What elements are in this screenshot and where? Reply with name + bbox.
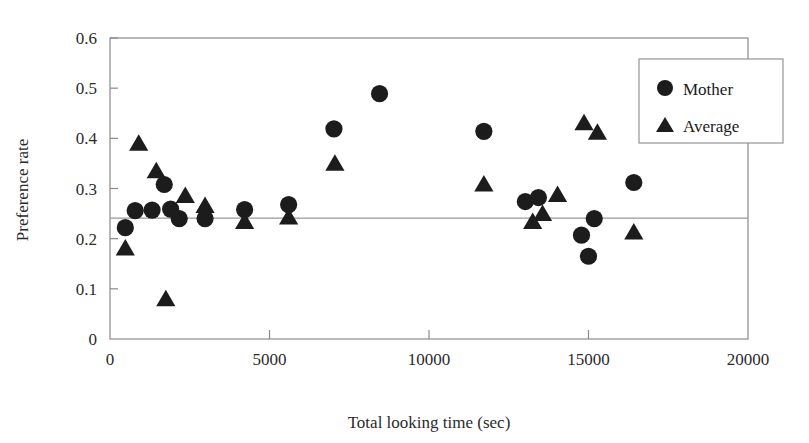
data-point-circle <box>530 189 547 206</box>
data-point-circle <box>625 174 642 191</box>
legend-circle-icon <box>657 80 673 96</box>
data-point-circle <box>236 201 253 218</box>
x-tick-label: 10000 <box>408 350 451 369</box>
plot-canvas: 00.10.20.30.40.50.6 05000100001500020000… <box>0 0 809 443</box>
data-point-circle <box>573 227 590 244</box>
data-point-circle <box>325 120 342 137</box>
data-point-circle <box>196 210 213 227</box>
y-tick-label: 0.1 <box>76 280 97 299</box>
x-axis-title: Total looking time (sec) <box>348 413 511 432</box>
x-tick-label: 20000 <box>727 350 770 369</box>
data-point-circle <box>371 85 388 102</box>
x-tick-label: 15000 <box>567 350 610 369</box>
x-tick-label: 5000 <box>253 350 287 369</box>
data-point-circle <box>117 219 134 236</box>
data-point-circle <box>171 210 188 227</box>
y-axis-title: Preference rate <box>13 139 32 241</box>
x-tick-label: 0 <box>106 350 115 369</box>
y-tick-label: 0.5 <box>76 79 97 98</box>
data-point-circle <box>144 201 161 218</box>
y-tick-label: 0.4 <box>76 129 98 148</box>
y-tick-label: 0.3 <box>76 180 97 199</box>
data-point-circle <box>580 248 597 265</box>
legend-label-mother: Mother <box>683 80 733 99</box>
scatter-plot-figure: 00.10.20.30.40.50.6 05000100001500020000… <box>0 0 809 443</box>
y-tick-label: 0.6 <box>76 29 97 48</box>
data-point-circle <box>280 196 297 213</box>
legend: Mother Average <box>639 59 783 143</box>
data-point-circle <box>156 176 173 193</box>
data-point-circle <box>127 202 144 219</box>
y-tick-label: 0.2 <box>76 230 97 249</box>
y-tick-label: 0 <box>89 330 98 349</box>
data-point-circle <box>475 123 492 140</box>
data-point-circle <box>586 210 603 227</box>
legend-label-average: Average <box>683 117 739 136</box>
